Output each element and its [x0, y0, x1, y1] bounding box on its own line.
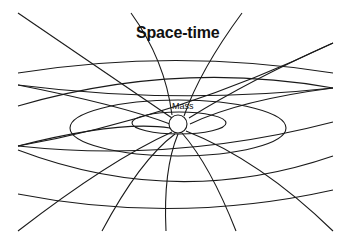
mass-sphere	[169, 115, 187, 133]
diagram-title: Space-time	[136, 24, 219, 42]
grid-arc	[18, 150, 333, 182]
grid-radial	[18, 85, 170, 124]
grid-radial	[189, 43, 333, 118]
grid-arc	[18, 190, 333, 209]
grid-radial	[18, 126, 170, 146]
grid-radial	[18, 132, 172, 231]
mass-label: Mass	[172, 101, 194, 111]
grid-arc	[18, 61, 333, 74]
